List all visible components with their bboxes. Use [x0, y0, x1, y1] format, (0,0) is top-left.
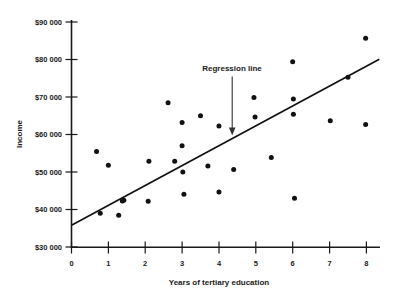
x-axis-tick-labels: 0 1 2 3 4 5 6 7 8 — [69, 259, 368, 268]
x-tick-label-1: 1 — [106, 259, 110, 268]
y-tick-label-60000: $60 000 — [35, 130, 62, 139]
scatter-point — [94, 149, 99, 154]
scatter-point — [166, 100, 171, 105]
scatter-point — [172, 159, 177, 164]
y-tick-label-80000: $80 000 — [35, 55, 62, 64]
scatter-point — [216, 123, 221, 128]
scatter-point — [146, 199, 151, 204]
y-tick-label-30000: $30 000 — [35, 243, 62, 252]
scatter-point — [251, 95, 256, 100]
scatter-point — [180, 170, 185, 175]
scatter-point — [291, 96, 296, 101]
x-tick-label-2: 2 — [143, 259, 147, 268]
scatter-point — [181, 192, 186, 197]
scatter-point — [180, 120, 185, 125]
scatter-point — [205, 164, 210, 169]
scatter-point — [328, 118, 333, 123]
x-tick-label-6: 6 — [291, 259, 295, 268]
scatter-point — [363, 36, 368, 41]
x-tick-label-5: 5 — [254, 259, 258, 268]
y-tick-label-90000: $90 000 — [35, 18, 62, 27]
x-axis-title: Years of tertiary education — [169, 278, 270, 287]
scatter-point — [363, 122, 368, 127]
x-tick-label-0: 0 — [69, 259, 73, 268]
scatter-point — [269, 155, 274, 160]
y-axis-title: Income — [15, 119, 24, 148]
scatter-point — [146, 159, 151, 164]
scatter-point — [290, 59, 295, 64]
scatter-point — [291, 112, 296, 117]
scatter-point — [106, 163, 111, 168]
scatter-point — [180, 143, 185, 148]
y-tick-label-50000: $50 000 — [35, 168, 62, 177]
x-tick-label-7: 7 — [328, 259, 332, 268]
y-tick-label-40000: $40 000 — [35, 205, 62, 214]
regression-line — [72, 59, 380, 225]
scatter-point — [98, 211, 103, 216]
annotation-arrow-head — [229, 128, 236, 136]
regression-line-annotation-label: Regression line — [202, 64, 262, 73]
scatter-point — [253, 114, 258, 119]
x-tick-label-3: 3 — [180, 259, 184, 268]
scatter-point — [116, 213, 121, 218]
scatter-point — [231, 167, 236, 172]
y-axis-tick-labels: $90 000 $80 000 $70 000 $60 000 $50 000 … — [35, 18, 62, 252]
y-tick-label-70000: $70 000 — [35, 93, 62, 102]
scatter-point — [121, 198, 126, 203]
scatter-point — [292, 196, 297, 201]
scatter-point — [198, 113, 203, 118]
x-tick-label-4: 4 — [217, 259, 222, 268]
x-tick-label-8: 8 — [364, 259, 368, 268]
scatter-point — [216, 189, 221, 194]
scatter-point — [345, 75, 350, 80]
scatter-plot-figure: $90 000 $80 000 $70 000 $60 000 $50 000 … — [0, 0, 393, 301]
